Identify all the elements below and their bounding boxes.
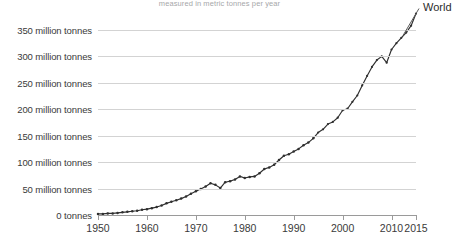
series-leader-path: [403, 9, 419, 36]
